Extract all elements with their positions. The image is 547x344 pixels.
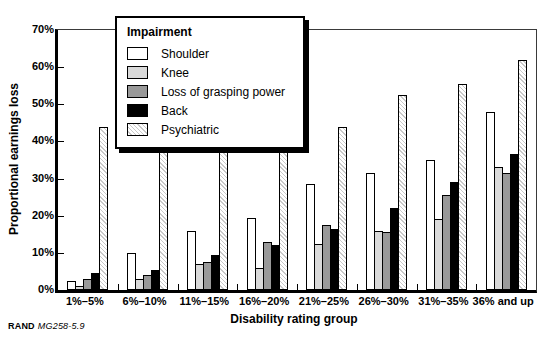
rand-brand: RAND <box>8 321 35 331</box>
y-tick-label: 0% <box>14 283 54 295</box>
bar-group-31%–35% <box>417 84 477 290</box>
legend-swatch-icon <box>127 85 148 98</box>
y-tick-label: 60% <box>14 60 54 72</box>
x-tick-mark <box>476 284 477 290</box>
y-tick-label: 40% <box>14 134 54 146</box>
footer: RANDMG258-5.9 <box>8 321 85 331</box>
legend-label: Loss of grasping power <box>161 85 285 99</box>
y-tick-label: 20% <box>14 209 54 221</box>
legend-entry-loss-of-grasping-power: Loss of grasping power <box>127 82 293 101</box>
y-tick-mark <box>58 67 64 68</box>
x-tick-mark <box>417 284 418 290</box>
legend-swatch-icon <box>127 123 148 136</box>
x-tick-label: 6%–10% <box>123 295 167 307</box>
bar-group-1%–5% <box>58 127 118 290</box>
y-tick-mark <box>58 104 64 105</box>
chart: Proportional earnings loss 0%10%20%30%40… <box>0 0 547 344</box>
y-tick-label: 70% <box>14 23 54 35</box>
bar-group-26%–30% <box>357 95 417 290</box>
bar-psychiatric-6 <box>398 95 407 290</box>
x-tick-mark <box>297 284 298 290</box>
legend-title: Impairment <box>127 25 293 39</box>
x-tick-mark <box>357 284 358 290</box>
x-tick-label: 1%–5% <box>66 295 104 307</box>
x-tick-label: 11%–15% <box>180 295 230 307</box>
legend-entries: ShoulderKneeLoss of grasping powerBackPs… <box>127 44 293 139</box>
legend-swatch-icon <box>127 66 148 79</box>
legend-entry-back: Back <box>127 101 293 120</box>
bar-psychiatric-8 <box>518 60 527 290</box>
legend-label: Back <box>161 104 188 118</box>
bar-group-36% and up <box>476 60 536 290</box>
x-tick-label: 31%–35% <box>418 295 468 307</box>
x-tick-mark <box>118 284 119 290</box>
legend: Impairment ShoulderKneeLoss of grasping … <box>115 16 305 149</box>
bar-group-16%–20% <box>237 128 297 290</box>
x-tick-label: 16%–20% <box>239 295 289 307</box>
bar-group-11%–15% <box>178 140 238 290</box>
legend-swatch-icon <box>127 104 148 117</box>
bar-psychiatric-3 <box>219 140 228 290</box>
x-tick-label: 21%–25% <box>299 295 349 307</box>
x-tick-mark <box>178 284 179 290</box>
legend-label: Knee <box>161 66 189 80</box>
bar-group-6%–10% <box>118 145 178 290</box>
x-tick-label: 36% and up <box>473 295 534 307</box>
bar-group-21%–25% <box>297 127 357 290</box>
y-tick-label: 50% <box>14 97 54 109</box>
legend-label: Psychiatric <box>161 123 219 137</box>
x-tick-label: 26%–30% <box>359 295 409 307</box>
x-axis-title: Disability rating group <box>230 312 357 326</box>
bar-psychiatric-4 <box>279 128 288 290</box>
doc-id: MG258-5.9 <box>38 321 85 331</box>
y-tick-label: 10% <box>14 246 54 258</box>
legend-swatch-icon <box>127 47 148 60</box>
legend-label: Shoulder <box>161 47 209 61</box>
legend-entry-knee: Knee <box>127 63 293 82</box>
bar-psychiatric-1 <box>99 127 108 290</box>
legend-entry-psychiatric: Psychiatric <box>127 120 293 139</box>
bar-psychiatric-7 <box>458 84 467 290</box>
x-tick-mark <box>237 284 238 290</box>
y-tick-label: 30% <box>14 172 54 184</box>
bar-psychiatric-2 <box>159 145 168 290</box>
legend-entry-shoulder: Shoulder <box>127 44 293 63</box>
bar-psychiatric-5 <box>338 127 347 290</box>
